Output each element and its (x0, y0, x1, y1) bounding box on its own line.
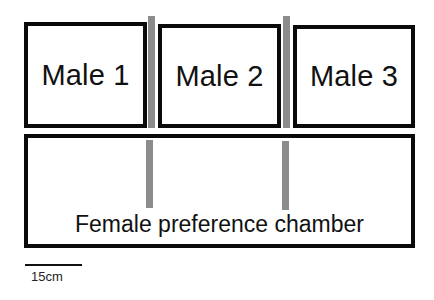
female-chamber-label: Female preference chamber (28, 213, 411, 236)
male-chamber-2-label: Male 2 (175, 62, 263, 91)
divider-top-2 (283, 16, 290, 128)
scale-bar (25, 264, 82, 266)
male-chamber-3-label: Male 3 (310, 62, 398, 91)
divider-top-1 (148, 16, 155, 128)
scale-bar-label: 15cm (31, 270, 63, 283)
male-chamber-1-label: Male 1 (41, 61, 129, 90)
male-chamber-3: Male 3 (293, 25, 415, 128)
male-chamber-1: Male 1 (24, 22, 147, 128)
divider-bottom-2 (282, 141, 289, 210)
female-preference-chamber: Female preference chamber (24, 134, 415, 248)
divider-bottom-1 (146, 140, 153, 208)
male-chamber-2: Male 2 (158, 24, 281, 128)
